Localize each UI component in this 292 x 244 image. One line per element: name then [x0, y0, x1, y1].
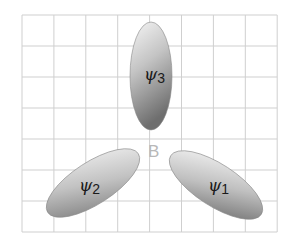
- center-atom-label: B: [148, 142, 159, 161]
- orbital-diagram: ψ3 ψ2 ψ1 B: [0, 0, 292, 244]
- lobe-psi3: ψ3: [130, 22, 172, 130]
